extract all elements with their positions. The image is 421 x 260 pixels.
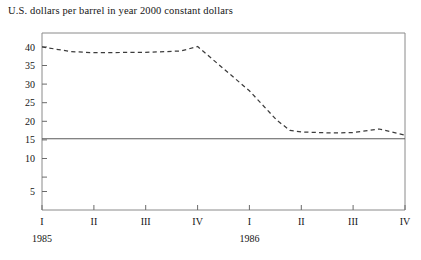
x-tick-label-1986-q1: I xyxy=(236,216,262,227)
y-tick-label-35: 35 xyxy=(13,60,35,71)
chart-figure: U.S. dollars per barrel in year 2000 con… xyxy=(0,0,421,260)
x-group-label-1986: 1986 xyxy=(232,233,266,244)
y-tick-label-5: 5 xyxy=(13,186,35,197)
x-axis-ticks xyxy=(42,205,405,210)
x-tick-label-1986-q3: III xyxy=(340,216,366,227)
x-group-label-1985: 1985 xyxy=(25,233,59,244)
x-tick-label-1985-q2: II xyxy=(81,216,107,227)
x-tick-label-1985-q4: IV xyxy=(185,216,211,227)
y-axis-ticks xyxy=(42,47,47,192)
y-tick-label-20: 20 xyxy=(13,116,35,127)
y-tick-label-25: 25 xyxy=(13,97,35,108)
y-tick-label-15: 15 xyxy=(13,134,35,145)
y-tick-label-30: 30 xyxy=(13,79,35,90)
oil-price-series xyxy=(42,47,405,136)
x-tick-label-1986-q4: IV xyxy=(392,216,418,227)
x-tick-label-1985-q1: I xyxy=(29,216,55,227)
y-tick-label-10: 10 xyxy=(13,153,35,164)
plot-frame xyxy=(42,33,405,210)
y-tick-label-40: 40 xyxy=(13,42,35,53)
x-tick-label-1985-q3: III xyxy=(133,216,159,227)
x-tick-label-1986-q2: II xyxy=(288,216,314,227)
